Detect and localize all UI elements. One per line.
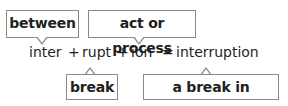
callout-break: break <box>66 74 118 100</box>
callout-act-or-process: act or process <box>88 10 196 38</box>
callout-between-pointer-fill <box>37 36 47 43</box>
callout-break-text: break <box>70 79 114 95</box>
callout-meaning: a break in activity <box>143 74 279 100</box>
callout-act-or-process-pointer-fill <box>134 36 144 43</box>
plus-sign-2: + <box>117 44 129 60</box>
callout-between-text: between <box>9 15 76 31</box>
prefix-inter: inter <box>29 44 62 60</box>
callout-meaning-text: a break in activity <box>172 79 249 106</box>
root-rupt: rupt <box>82 44 111 60</box>
result-word: interruption <box>176 44 259 60</box>
equals-sign: = <box>162 44 174 60</box>
suffix-ion: ion <box>131 44 152 60</box>
callout-between: between <box>6 10 79 38</box>
plus-sign-1: + <box>68 44 80 60</box>
